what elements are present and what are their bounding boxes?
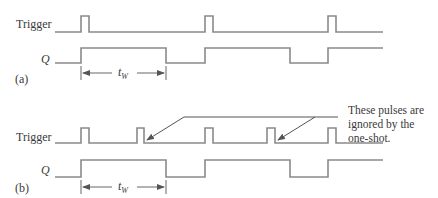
annotation-line-1: These pulses are: [348, 103, 424, 117]
trigger-label-b: Trigger: [16, 130, 52, 145]
timing-diagram: [0, 0, 438, 198]
q-label-a: Q: [41, 52, 50, 67]
part-a-label: (a): [15, 72, 28, 87]
q-waveform-b: [55, 160, 383, 177]
annotation-line-3: one-shot.: [348, 131, 424, 145]
tw-label-b: tW: [118, 179, 128, 195]
trigger-label-a: Trigger: [16, 17, 52, 32]
trigger-waveform-a: [55, 16, 383, 32]
trigger-waveform-b: [55, 128, 383, 143]
tw-label-a: tW: [118, 65, 128, 81]
q-waveform-a: [55, 48, 383, 63]
ignored-pulses-annotation: These pulses are ignored by the one-shot…: [348, 103, 424, 145]
part-b-label: (b): [15, 181, 29, 196]
annotation-leaders: [147, 117, 338, 140]
annotation-line-2: ignored by the: [348, 117, 424, 131]
q-label-b: Q: [41, 163, 50, 178]
